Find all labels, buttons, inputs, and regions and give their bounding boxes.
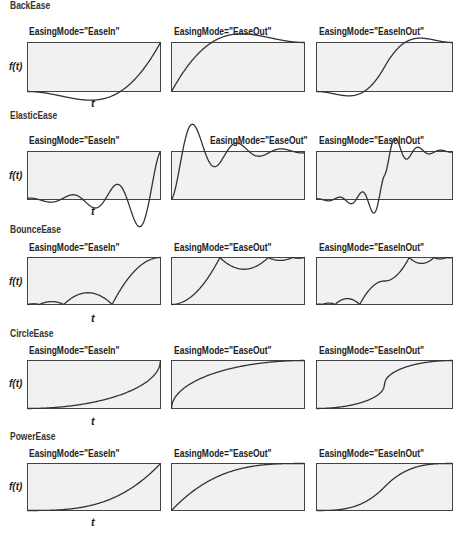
mode-label-easeinout: EasingMode="EaseInOut": [319, 26, 424, 37]
plot-frame: [172, 464, 305, 511]
plot-elastic-easein: [27, 151, 161, 200]
mode-label-easein: EasingMode="EaseIn": [29, 448, 119, 459]
section-title: CircleEase: [10, 328, 53, 339]
mode-label-easeinout: EasingMode="EaseInOut": [319, 135, 424, 146]
x-axis-label: t: [91, 97, 95, 109]
plot-frame: [28, 361, 161, 409]
mode-label-easeout: EasingMode="EaseOut": [174, 345, 272, 356]
mode-label-easein: EasingMode="EaseIn": [29, 345, 119, 356]
y-axis-label: f(t): [9, 276, 22, 287]
plot-power-easeout: [171, 463, 305, 511]
plot-frame: [172, 43, 305, 92]
plot-frame: [28, 258, 161, 305]
section-title: PowerEase: [10, 431, 55, 442]
y-axis-label: f(t): [9, 378, 22, 389]
x-axis-label: t: [91, 312, 95, 324]
plot-frame: [28, 43, 161, 92]
mode-label-easeinout: EasingMode="EaseInOut": [319, 242, 424, 253]
plot-bounce-easeout: [171, 257, 305, 305]
plot-circle-easeinout: [316, 360, 453, 409]
plot-bounce-easein: [27, 257, 161, 305]
y-axis-label: f(t): [9, 61, 22, 72]
mode-label-easeinout: EasingMode="EaseInOut": [319, 345, 424, 356]
plot-frame: [172, 258, 305, 305]
x-axis-label: t: [91, 415, 95, 427]
mode-label-easeout: EasingMode="EaseOut": [174, 242, 272, 253]
plot-back-easein: [27, 42, 161, 92]
plot-bounce-easeinout: [316, 257, 453, 305]
plot-circle-easein: [27, 360, 161, 409]
y-axis-label: f(t): [9, 481, 22, 492]
mode-label-easeout: EasingMode="EaseOut": [174, 448, 272, 459]
mode-label-easein: EasingMode="EaseIn": [29, 26, 119, 37]
section-title: ElasticEase: [10, 110, 57, 121]
plot-frame: [172, 152, 305, 200]
plot-circle-easeout: [171, 360, 305, 409]
plot-back-easeout: [171, 42, 305, 92]
plot-power-easein: [27, 463, 161, 511]
plot-frame: [28, 464, 161, 511]
mode-label-easein: EasingMode="EaseIn": [29, 242, 119, 253]
plot-back-easeinout: [316, 42, 453, 92]
plot-elastic-easeout: [171, 151, 305, 200]
plot-power-easeinout: [316, 463, 453, 511]
section-title: BounceEase: [10, 224, 61, 235]
mode-label-easein: EasingMode="EaseIn": [29, 135, 119, 146]
mode-label-easeout: EasingMode="EaseOut": [210, 135, 308, 146]
plot-frame: [28, 152, 161, 200]
section-title: BackEase: [10, 0, 50, 11]
x-axis-label: t: [91, 516, 95, 528]
y-axis-label: f(t): [9, 170, 22, 181]
plot-elastic-easeinout: [316, 151, 453, 200]
plot-frame: [172, 361, 305, 409]
mode-label-easeinout: EasingMode="EaseInOut": [319, 448, 424, 459]
